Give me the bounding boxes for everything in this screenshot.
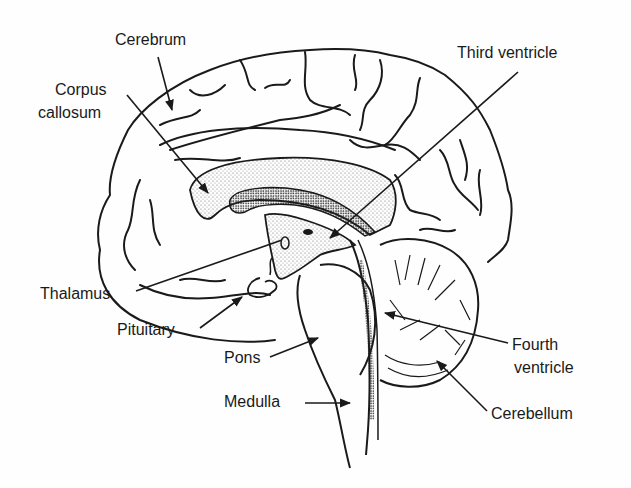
label-fourth-ventricle-line2: ventricle xyxy=(514,358,574,377)
thalamus-region xyxy=(265,214,355,279)
label-third-ventricle: Third ventricle xyxy=(457,43,557,62)
label-corpus-callosum-line1: Corpus xyxy=(55,80,107,99)
label-fourth-ventricle-line1: Fourth xyxy=(512,335,558,354)
label-pituitary: Pituitary xyxy=(117,320,175,339)
corpus-callosum-pointer xyxy=(127,95,208,193)
label-cerebrum: Cerebrum xyxy=(115,30,186,49)
label-pons: Pons xyxy=(224,348,260,367)
brain-diagram: Cerebrum Corpus callosum Third ventricle… xyxy=(0,0,631,488)
label-medulla: Medulla xyxy=(224,392,280,411)
pituitary-pointer xyxy=(200,297,242,328)
pons-outline xyxy=(298,275,350,468)
thalamus-pointer xyxy=(136,240,282,291)
cerebellum-pointer xyxy=(437,361,487,411)
label-cerebellum: Cerebellum xyxy=(491,404,573,423)
label-thalamus: Thalamus xyxy=(40,284,110,303)
cerebrum-pointer xyxy=(158,57,172,110)
label-corpus-callosum-line2: callosum xyxy=(38,103,101,122)
